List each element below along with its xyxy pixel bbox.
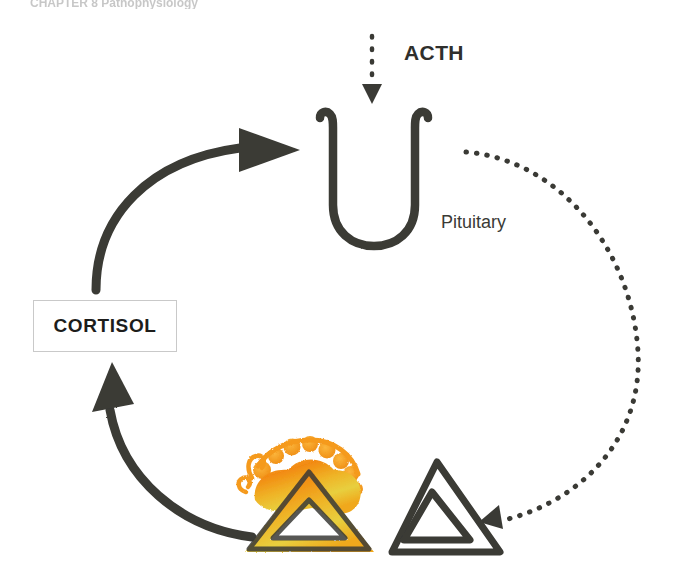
acth-label: ACTH [404, 41, 464, 65]
cortisol-box: CORTISOL [33, 300, 177, 352]
thick-curved-arrow-left-icon [92, 362, 252, 537]
dotted-feedback-arrow-icon [466, 152, 638, 529]
pituitary-label: Pituitary [441, 212, 506, 233]
dotted-down-arrow-icon [362, 36, 382, 104]
cortisol-label: CORTISOL [54, 315, 157, 337]
outline-adrenal-triangle-icon [392, 462, 500, 552]
thick-curved-arrow-up-icon [96, 128, 300, 290]
orange-adrenal-triangle-icon [239, 436, 374, 552]
pituitary-u-shape-icon [320, 112, 428, 246]
diagram-canvas [0, 0, 685, 580]
hpa-axis-figure: CHAPTER 8 Pathophysiology [0, 0, 685, 580]
